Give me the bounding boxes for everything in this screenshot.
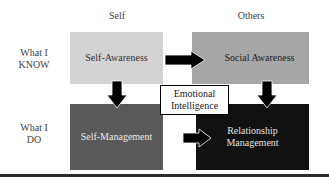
row-header-do: What I DO <box>4 122 64 146</box>
center-label-line2: Intelligence <box>171 100 218 112</box>
column-header-self: Self <box>72 10 162 21</box>
arrow-down-icon <box>257 81 277 109</box>
row-header-know-line1: What I <box>4 47 64 59</box>
arrow-right-icon <box>183 129 213 147</box>
center-label-line1: Emotional <box>171 88 218 100</box>
row-header-do-line2: DO <box>4 134 64 146</box>
arrow-down-icon <box>107 81 127 109</box>
emotional-intelligence-box: Emotional Intelligence <box>160 85 229 115</box>
bottom-divider <box>0 174 329 177</box>
quadrant-label: Self-Awareness <box>85 52 147 64</box>
column-header-others: Others <box>206 10 296 21</box>
quadrant-self-management: Self-Management <box>70 104 163 170</box>
row-header-know-line2: KNOW <box>4 59 64 71</box>
quadrant-label-line2: Management <box>226 137 278 149</box>
quadrant-label: Self-Management <box>81 131 153 143</box>
quadrant-label: Social Awareness <box>207 52 295 64</box>
quadrant-label-line1: Relationship <box>226 125 278 137</box>
row-header-do-line1: What I <box>4 122 64 134</box>
quadrant-social-awareness: Social Awareness <box>192 32 309 84</box>
quadrant-self-awareness: Self-Awareness <box>70 32 163 84</box>
arrow-right-icon <box>165 51 207 69</box>
row-header-know: What I KNOW <box>4 47 64 71</box>
